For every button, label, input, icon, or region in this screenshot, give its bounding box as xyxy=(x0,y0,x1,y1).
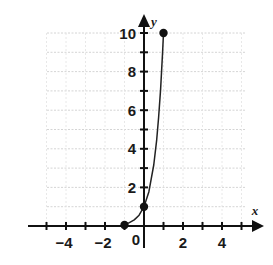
x-tick-label-neg4: −4 xyxy=(55,234,73,251)
y-tick-label-10: 10 xyxy=(119,25,136,42)
origin-label: 0 xyxy=(132,231,140,248)
x-axis-label: x xyxy=(251,203,259,218)
y-axis-arrow-icon xyxy=(138,14,150,27)
exponential-graph: 10 8 6 4 2 −4 −2 0 2 4 x y xyxy=(0,0,273,265)
y-tick-label-2: 2 xyxy=(128,179,136,196)
grid xyxy=(47,33,245,207)
y-tick-label-8: 8 xyxy=(128,63,136,80)
point-0 xyxy=(140,203,148,211)
y-tick-label-6: 6 xyxy=(128,102,136,119)
y-tick-label-4: 4 xyxy=(128,140,137,157)
point-1 xyxy=(159,29,167,37)
x-axis-arrow-icon xyxy=(252,220,264,232)
x-tick-label-2: 2 xyxy=(179,234,187,251)
x-tick-label-neg2: −2 xyxy=(94,234,111,251)
x-tick-label-4: 4 xyxy=(218,234,227,251)
point-neg1 xyxy=(120,221,128,229)
y-axis-label: y xyxy=(149,14,157,29)
